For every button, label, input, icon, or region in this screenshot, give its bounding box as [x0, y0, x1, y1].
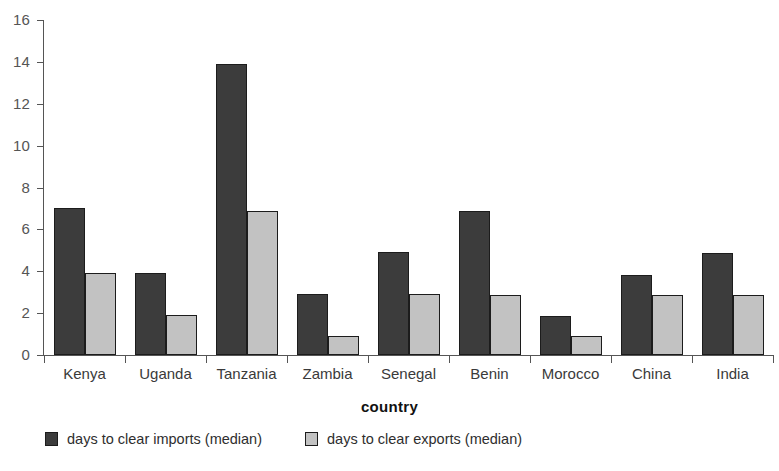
- x-axis-category-label: Morocco: [530, 366, 611, 383]
- legend-label-exports: days to clear exports (median): [327, 432, 522, 447]
- y-axis-tick-label: 16: [4, 12, 30, 27]
- legend-swatch-exports-icon: [305, 432, 318, 446]
- x-axis-category-label: Benin: [449, 366, 530, 383]
- bar-imports[interactable]: [297, 294, 328, 355]
- x-axis-category-label: Kenya: [44, 366, 125, 383]
- y-axis-tick-mark: [37, 188, 44, 189]
- y-axis-tick-mark: [37, 20, 44, 21]
- x-axis-tick-mark: [206, 356, 207, 363]
- y-axis-tick-mark: [37, 313, 44, 314]
- y-axis-tick-label: 12: [4, 96, 30, 111]
- x-axis-tick-mark: [530, 356, 531, 363]
- y-axis-tick-label: 2: [4, 305, 30, 320]
- y-axis-tick-mark: [37, 355, 44, 356]
- y-axis-tick-mark: [37, 146, 44, 147]
- x-axis-tick-mark: [287, 356, 288, 363]
- x-axis-tick-mark: [692, 356, 693, 363]
- y-axis-tick-label: 14: [4, 54, 30, 69]
- bar-exports[interactable]: [652, 295, 683, 355]
- bar-exports[interactable]: [733, 295, 764, 355]
- x-axis-category-label: India: [692, 366, 773, 383]
- bar-imports[interactable]: [702, 253, 733, 355]
- bar-exports[interactable]: [85, 273, 116, 355]
- x-axis-line: [43, 355, 774, 356]
- legend-entry-exports[interactable]: days to clear exports (median): [305, 432, 522, 447]
- bar-exports[interactable]: [247, 211, 278, 355]
- y-axis-tick-mark: [37, 62, 44, 63]
- y-axis-tick-mark: [37, 104, 44, 105]
- x-axis-tick-mark: [125, 356, 126, 363]
- y-axis-tick-mark: [37, 271, 44, 272]
- bar-imports[interactable]: [540, 316, 571, 355]
- x-axis-tick-mark: [611, 356, 612, 363]
- x-axis-tick-mark: [368, 356, 369, 363]
- bar-exports[interactable]: [571, 336, 602, 355]
- x-axis-tick-mark: [449, 356, 450, 363]
- bar-imports[interactable]: [216, 64, 247, 355]
- chart-legend: days to clear imports (median) days to c…: [45, 432, 745, 456]
- bar-exports[interactable]: [409, 294, 440, 355]
- y-axis-tick-label: 10: [4, 138, 30, 153]
- x-axis-tick-mark: [773, 356, 774, 363]
- bar-chart-figure: 0246810121416 KenyaUgandaTanzaniaZambiaS…: [0, 0, 779, 471]
- y-axis-tick-label: 8: [4, 180, 30, 195]
- bar-imports[interactable]: [54, 208, 85, 355]
- bar-exports[interactable]: [328, 336, 359, 355]
- x-axis-category-label: China: [611, 366, 692, 383]
- x-axis-category-label: Senegal: [368, 366, 449, 383]
- x-axis-tick-mark: [44, 356, 45, 363]
- bar-exports[interactable]: [166, 315, 197, 355]
- bar-imports[interactable]: [459, 211, 490, 355]
- bar-imports[interactable]: [378, 252, 409, 355]
- bar-exports[interactable]: [490, 295, 521, 355]
- y-axis-tick-label: 0: [4, 347, 30, 362]
- bar-imports[interactable]: [621, 275, 652, 355]
- y-axis-tick-label: 4: [4, 263, 30, 278]
- y-axis-tick-label: 6: [4, 221, 30, 236]
- x-axis-category-label: Zambia: [287, 366, 368, 383]
- legend-label-imports: days to clear imports (median): [67, 432, 262, 447]
- legend-swatch-imports-icon: [45, 432, 58, 446]
- plot-area: [44, 20, 773, 355]
- legend-entry-imports[interactable]: days to clear imports (median): [45, 432, 262, 447]
- bar-imports[interactable]: [135, 273, 166, 355]
- x-axis-category-label: Tanzania: [206, 366, 287, 383]
- x-axis-title: country: [0, 398, 779, 415]
- y-axis-tick-mark: [37, 229, 44, 230]
- x-axis-category-label: Uganda: [125, 366, 206, 383]
